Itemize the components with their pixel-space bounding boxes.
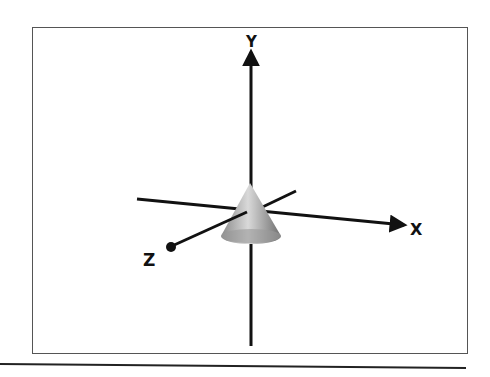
x-axis-label: X [410,220,423,239]
axes-diagram: Y X Z [0,0,490,377]
z-axis-dot-icon [166,242,176,252]
z-axis-label: Z [143,250,155,270]
y-axis-label: Y [245,33,258,51]
bottom-rule [0,364,466,368]
